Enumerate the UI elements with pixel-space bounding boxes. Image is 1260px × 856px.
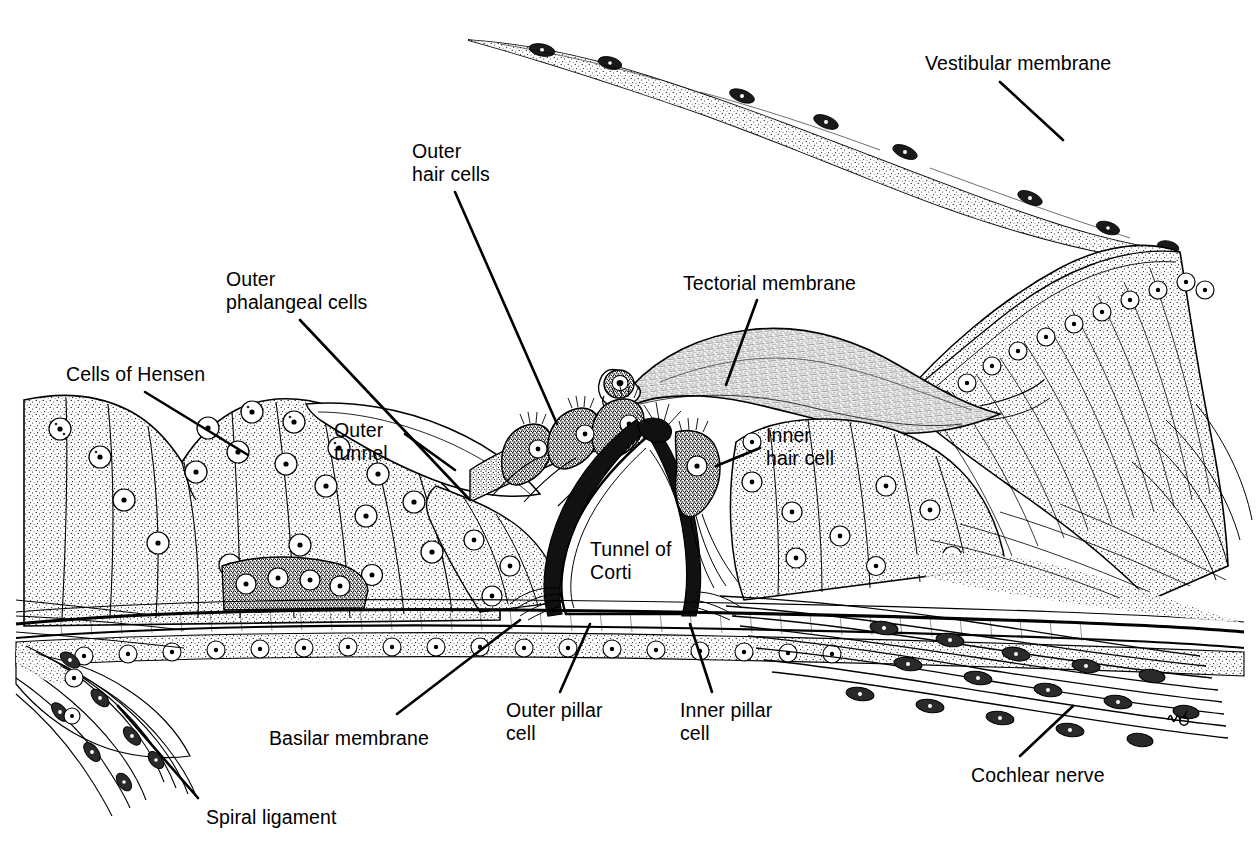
label-outer-pillar-cell: Outer pillar cell [506, 699, 603, 745]
label-basilar-membrane: Basilar membrane [269, 727, 429, 750]
leader-vestibular-membrane [1000, 82, 1063, 140]
label-inner-hair-cell: Inner hair cell [766, 424, 834, 470]
label-outer-hair-cells: Outer hair cells [412, 140, 490, 186]
label-vestibular-membrane: Vestibular membrane [925, 52, 1111, 75]
label-inner-pillar-cell: Inner pillar cell [680, 699, 772, 745]
label-cells-of-hensen: Cells of Hensen [66, 363, 205, 386]
label-cochlear-nerve: Cochlear nerve [971, 764, 1105, 787]
anatomical-figure: Vestibular membraneOuter hair cellsOuter… [0, 0, 1260, 856]
label-outer-phalangeal-cells: Outer phalangeal cells [226, 268, 367, 314]
label-tectorial-membrane: Tectorial membrane [683, 272, 856, 295]
organ-of-corti-drawing [0, 0, 1260, 856]
leader-outer-hair-cells [455, 192, 557, 424]
label-tunnel-of-corti: Tunnel of Corti [590, 538, 671, 584]
spiral-ligament-structure [16, 646, 196, 816]
label-spiral-ligament: Spiral ligament [206, 806, 336, 829]
label-outer-tunnel: Outer tunnel [334, 419, 388, 465]
